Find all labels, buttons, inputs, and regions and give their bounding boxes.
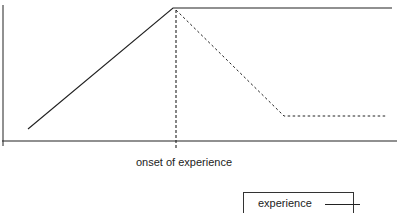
legend-solid-line-swatch <box>325 204 360 205</box>
legend-label: experience <box>258 197 312 209</box>
x-axis-label: onset of experience <box>136 156 232 168</box>
no-experience-line <box>176 10 386 116</box>
chart-canvas <box>0 0 397 213</box>
experience-line <box>28 8 392 129</box>
legend: experience <box>243 192 354 213</box>
